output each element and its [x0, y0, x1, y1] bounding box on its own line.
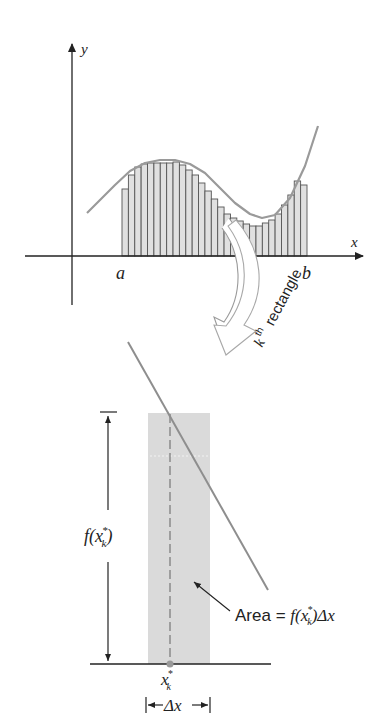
upper-graph: y x a b: [25, 41, 363, 305]
kth-label-k: k: [251, 336, 268, 350]
height-label: f(x*k): [84, 524, 112, 549]
riemann-rectangle: [148, 163, 154, 256]
riemann-rectangle: [122, 189, 128, 256]
sample-point-dot: [167, 661, 174, 668]
kth-label-text: rectangle: [261, 266, 305, 328]
riemann-rectangle: [192, 175, 198, 256]
x-axis-label: x: [350, 234, 358, 250]
riemann-sum-diagram: y x a b k th rectangle f(x*k) Area = f(x…: [0, 0, 381, 726]
riemann-rectangle: [301, 185, 307, 256]
riemann-rectangle: [294, 181, 300, 256]
delta-x-label: Δx: [163, 696, 182, 715]
riemann-rectangle: [141, 164, 147, 256]
y-axis-label: y: [79, 41, 88, 57]
riemann-rectangle: [199, 183, 205, 256]
riemann-rectangle: [288, 195, 294, 256]
riemann-rectangle: [135, 167, 141, 256]
riemann-rectangle: [167, 163, 173, 256]
lower-graph: f(x*k) Area = f(x*k)Δx x*k Δx: [84, 342, 335, 715]
riemann-rectangle: [262, 223, 268, 256]
area-label: Area = f(x*k)Δx: [235, 604, 335, 627]
riemann-rectangle: [205, 191, 211, 256]
a-label: a: [116, 263, 125, 283]
riemann-rectangle: [211, 199, 217, 256]
riemann-rectangle: [173, 162, 179, 256]
riemann-rectangle: [154, 163, 160, 256]
xk-star-label: x*k: [160, 668, 173, 692]
riemann-rectangle: [256, 226, 262, 256]
riemann-rectangle: [160, 163, 166, 256]
riemann-rectangle: [275, 214, 281, 256]
riemann-rectangle: [128, 175, 134, 256]
kth-rectangle: [148, 413, 210, 664]
riemann-rectangle: [269, 220, 275, 256]
riemann-rectangle: [281, 205, 287, 256]
riemann-rectangle: [179, 165, 185, 256]
kth-label-superscript: th: [252, 325, 266, 338]
riemann-rectangle: [186, 170, 192, 256]
riemann-rectangle: [218, 207, 224, 256]
